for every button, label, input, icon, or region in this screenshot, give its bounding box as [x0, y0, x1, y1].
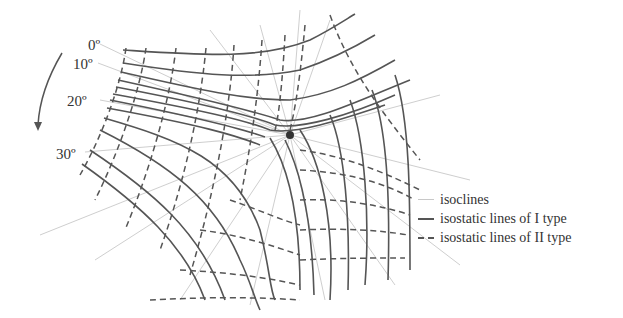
- legend-item-isoclines: isoclines: [418, 190, 571, 209]
- dashed-line-swatch-icon: [418, 237, 434, 239]
- singular-point: [286, 131, 294, 139]
- legend-label: isostatic lines of II type: [440, 230, 571, 246]
- solid-line-swatch-icon: [418, 218, 434, 220]
- isocline-swatch-icon: [418, 199, 434, 200]
- isostatic-lines-type-1: [82, 14, 410, 310]
- isoclines: [40, 10, 470, 305]
- isostatic-lines-type-2: [80, 15, 420, 300]
- legend: isoclines isostatic lines of I type isos…: [418, 190, 571, 247]
- legend-item-type2: isostatic lines of II type: [418, 228, 571, 247]
- legend-label: isoclines: [440, 192, 489, 208]
- legend-label: isostatic lines of I type: [440, 211, 567, 227]
- angle-label-0: 0º: [88, 37, 100, 54]
- angle-label-20: 20º: [67, 93, 87, 110]
- angle-label-30: 30º: [56, 146, 76, 163]
- rotation-arrow-icon: [34, 53, 62, 131]
- angle-label-10: 10º: [73, 56, 93, 73]
- legend-item-type1: isostatic lines of I type: [418, 209, 571, 228]
